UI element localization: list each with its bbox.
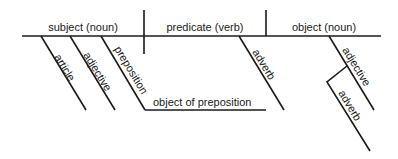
sentence-diagram: subject (noun) predicate (verb) object (… — [0, 0, 398, 159]
subject-label: subject (noun) — [48, 21, 118, 33]
predicate-label: predicate (verb) — [166, 21, 243, 33]
object-of-preposition-label: object of preposition — [153, 96, 251, 108]
article-label: article — [52, 52, 77, 83]
object-label: object (noun) — [292, 21, 356, 33]
object-adverb-label: adverb — [336, 88, 364, 123]
subject-adjective-label: adjective — [81, 50, 114, 93]
